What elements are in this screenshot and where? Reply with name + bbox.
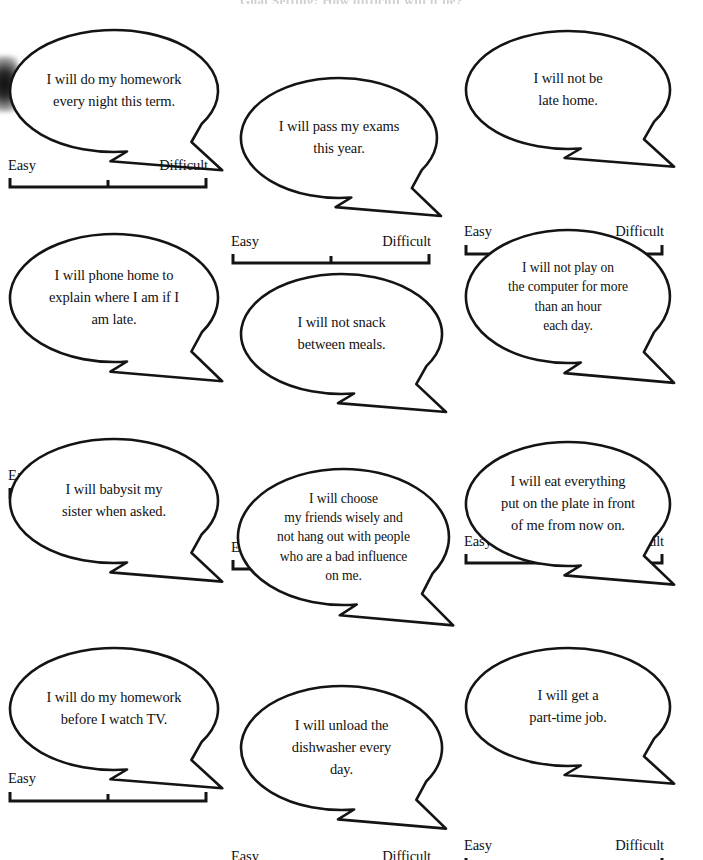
speech-bubble[interactable]: I will eat everything put on the plate i… <box>464 440 672 568</box>
speech-bubble[interactable]: I will unload the dishwasher every day. <box>239 684 444 812</box>
scale-label-difficult: Difficult <box>615 838 664 853</box>
speech-bubble[interactable]: I will not be late home. <box>464 29 672 151</box>
goal-cell: I will babysit my sister when asked. <box>8 437 220 565</box>
scale-labels: EasyDifficult <box>8 158 208 173</box>
speech-bubble[interactable]: I will do my homework every night this t… <box>8 28 220 154</box>
scale-label-easy: Easy <box>464 838 492 853</box>
speech-bubble-outline <box>239 272 444 396</box>
scale-bar-ticks <box>10 178 206 187</box>
speech-bubble-outline <box>464 646 672 768</box>
scale-label-difficult: Difficult <box>159 158 208 173</box>
worksheet-page: Goal Setting: How difficult will it be? … <box>0 0 703 860</box>
scale-label-easy: Easy <box>231 849 259 860</box>
goal-cell: I will not be late home. <box>464 29 672 151</box>
speech-bubble-outline <box>239 76 439 200</box>
scale-label-easy: Easy <box>8 158 36 173</box>
goal-cell: I will do my homework before I watch TV. <box>8 646 220 772</box>
speech-bubble-outline <box>239 684 444 812</box>
goal-cell: I will eat everything put on the plate i… <box>464 440 672 568</box>
speech-bubble[interactable]: I will pass my exams this year. <box>239 76 439 200</box>
speech-bubble-outline <box>464 228 672 365</box>
speech-bubble[interactable]: I will do my homework before I watch TV. <box>8 646 220 772</box>
scale-bar-ticks <box>233 254 429 263</box>
goal-cell: I will do my homework every night this t… <box>8 28 220 154</box>
scale-labels: EasyDifficult <box>464 838 664 853</box>
speech-bubble-outline <box>464 440 672 568</box>
page-title: Goal Setting: How difficult will it be? <box>0 0 703 4</box>
difficulty-rating-scale[interactable]: EasyDifficult <box>8 158 208 189</box>
goal-grid: I will do my homework every night this t… <box>0 2 703 399</box>
speech-bubble[interactable]: I will babysit my sister when asked. <box>8 437 220 565</box>
goal-cell: I will unload the dishwasher every day. <box>239 684 444 812</box>
difficulty-rating-scale[interactable]: EasyDifficult <box>231 849 431 860</box>
difficulty-rating-scale[interactable]: EasyDifficult <box>231 234 431 265</box>
goal-cell: I will pass my exams this year. <box>239 76 439 200</box>
speech-bubble-outline <box>8 437 220 565</box>
scale-label-difficult: Difficult <box>382 234 431 249</box>
difficulty-rating-scale[interactable]: EasyDifficult <box>464 838 664 860</box>
speech-bubble-outline <box>8 646 220 772</box>
speech-bubble[interactable]: I will phone home to explain where I am … <box>8 232 220 364</box>
scale-label-difficult: Difficult <box>382 849 431 860</box>
scale-label-easy: Easy <box>231 234 259 249</box>
speech-bubble-outline <box>8 232 220 364</box>
goal-cell: I will phone home to explain where I am … <box>8 232 220 364</box>
speech-bubble[interactable]: I will not play on the computer for more… <box>464 228 672 365</box>
speech-bubble[interactable]: I will not snack between meals. <box>239 272 444 396</box>
scale-labels: EasyDifficult <box>231 234 431 249</box>
goal-cell: I will choose my friends wisely and not … <box>236 467 451 607</box>
scale-bar-ticks <box>10 792 206 801</box>
scale-label-easy: Easy <box>8 771 36 786</box>
scale-bar[interactable] <box>464 856 664 860</box>
goal-cell: I will not play on the computer for more… <box>464 228 672 365</box>
scale-bar[interactable] <box>8 790 208 803</box>
speech-bubble-outline <box>464 29 672 151</box>
speech-bubble-outline <box>8 28 220 154</box>
goal-cell: I will not snack between meals. <box>239 272 444 396</box>
scale-labels: EasyDifficult <box>231 849 431 860</box>
goal-cell: I will get a part-time job. <box>464 646 672 768</box>
speech-bubble-outline <box>236 467 451 607</box>
speech-bubble[interactable]: I will choose my friends wisely and not … <box>236 467 451 607</box>
scale-bar[interactable] <box>231 252 431 265</box>
speech-bubble[interactable]: I will get a part-time job. <box>464 646 672 768</box>
scale-bar[interactable] <box>8 176 208 189</box>
